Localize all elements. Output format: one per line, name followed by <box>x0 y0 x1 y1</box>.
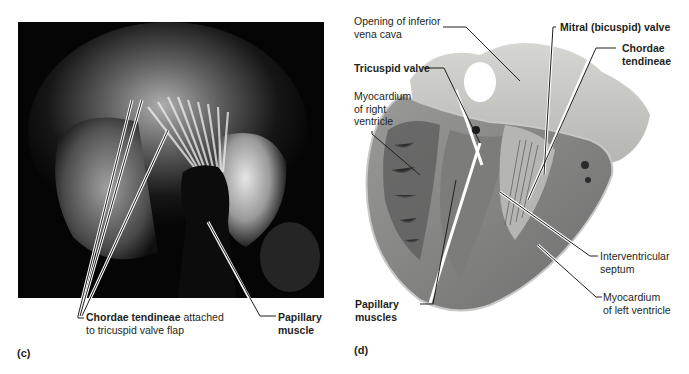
label-papillary-muscle-c: Papillary muscle <box>278 311 322 336</box>
panel-letter-d: (d) <box>354 344 368 356</box>
label-chordae-bold: Chordae tendineae <box>86 311 181 323</box>
label-myo-right-line2: of right <box>354 103 386 115</box>
label-mitral-valve: Mitral (bicuspid) valve <box>560 21 670 34</box>
label-chordae-tendineae-d: Chordae tendineae <box>622 42 671 67</box>
photo-c-illustration <box>18 22 324 298</box>
label-septum-line1: Interventricular <box>600 250 669 262</box>
label-septum-line2: septum <box>600 263 634 275</box>
label-ivc-line1: Opening of inferior <box>354 15 440 27</box>
label-chordae-line2: to tricuspid valve flap <box>86 324 184 336</box>
label-papillary-d-line1: Papillary <box>355 298 399 310</box>
label-chordae-d-line2: tendineae <box>622 55 671 67</box>
label-ivc-line2: vena cava <box>354 28 402 40</box>
label-chordae-rest: attached <box>181 311 224 323</box>
label-myo-left-line1: Myocardium <box>603 291 660 303</box>
panel-letter-c: (c) <box>17 347 30 359</box>
label-papillary-line2: muscle <box>278 324 314 336</box>
label-papillary-d-line2: muscles <box>355 311 397 323</box>
label-chordae-d-line1: Chordae <box>622 42 665 54</box>
label-myo-left-line2: of left ventricle <box>603 304 671 316</box>
label-myo-right-line3: ventricle <box>354 115 393 127</box>
label-chordae-tendineae-c: Chordae tendineae attached to tricuspid … <box>86 311 224 336</box>
label-myo-right-line1: Myocardium <box>354 90 411 102</box>
label-myocardium-left-ventricle: Myocardium of left ventricle <box>603 291 671 316</box>
label-papillary-line1: Papillary <box>278 311 322 323</box>
label-opening-inferior-vena-cava: Opening of inferior vena cava <box>354 15 440 40</box>
label-interventricular-septum: Interventricular septum <box>600 250 669 275</box>
label-papillary-muscles-d: Papillary muscles <box>355 298 399 323</box>
label-tricuspid-valve: Tricuspid valve <box>354 62 430 75</box>
label-myocardium-right-ventricle: Myocardium of right ventricle <box>354 90 411 128</box>
photo-right-ventricle-interior <box>18 22 324 298</box>
